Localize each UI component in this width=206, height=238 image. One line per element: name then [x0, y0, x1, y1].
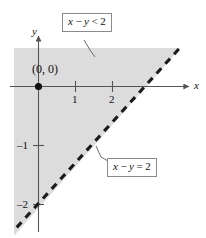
y-tick-label-minus-1: –1: [17, 140, 28, 151]
x-tick-label-1: 1: [72, 94, 78, 105]
inequality-graph-figure: y x (0, 0) 1 2 –1 –2 x−y<2 x−y=2: [0, 0, 206, 238]
callout-boundary-equation: x−y=2: [107, 158, 157, 177]
callout-inequality-relation: <: [92, 15, 98, 27]
x-tick-label-2: 2: [109, 94, 115, 105]
y-axis-label: y: [32, 26, 37, 37]
callout-equation-lhs-var1: x: [113, 160, 118, 172]
callout-inequality: x−y<2: [62, 13, 112, 32]
callout-inequality-operator: −: [75, 15, 81, 27]
graph-canvas: [0, 0, 206, 238]
origin-point: [35, 83, 42, 90]
callout-equation-operator: −: [120, 160, 126, 172]
callout-inequality-rhs: 2: [100, 15, 106, 27]
callout-equation-rhs: 2: [145, 160, 151, 172]
x-axis-label: x: [194, 80, 199, 91]
callout-equation-lhs-var2: y: [129, 160, 134, 172]
y-tick-label-minus-2: –2: [17, 199, 28, 210]
origin-label: (0, 0): [32, 63, 58, 75]
callout-inequality-lhs-var1: x: [68, 15, 73, 27]
callout-inequality-lhs-var2: y: [84, 15, 89, 27]
callout-equation-relation: =: [137, 160, 143, 172]
